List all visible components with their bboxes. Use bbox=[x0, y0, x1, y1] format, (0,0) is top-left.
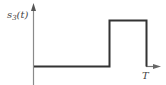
y-label-argument: (t) bbox=[17, 9, 29, 20]
x-axis-label: T bbox=[142, 70, 149, 81]
signal-diagram: s3(t) T bbox=[0, 0, 166, 85]
y-axis-label: s3(t) bbox=[7, 9, 28, 22]
signal-waveform bbox=[34, 21, 147, 67]
x-axis-arrow-icon bbox=[153, 64, 161, 69]
y-axis-arrow-icon bbox=[31, 3, 36, 11]
